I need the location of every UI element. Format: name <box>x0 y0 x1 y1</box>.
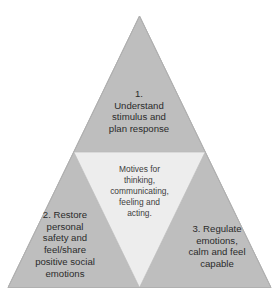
top-triangle-shape <box>74 16 205 152</box>
triangle-diagram-graphic <box>0 0 279 298</box>
triangle-diagram: 1. Understand stimulus and plan response… <box>0 0 279 298</box>
